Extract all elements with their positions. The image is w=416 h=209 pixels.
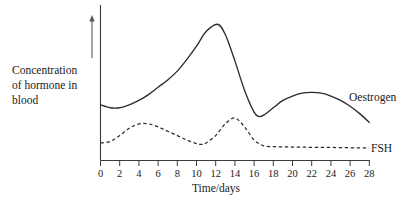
oestrogen-curve: [101, 24, 370, 122]
x-tick-label: 20: [287, 168, 298, 179]
x-axis-tick-labels: 0 2 4 6 8 10 12 14 16 18 20 22 24 26 28: [98, 168, 375, 179]
x-tick-label: 16: [249, 168, 260, 179]
x-tick-label: 10: [191, 168, 202, 179]
x-tick-label: 8: [175, 168, 180, 179]
increasing-direction-arrow-icon: [89, 15, 94, 58]
x-tick-label: 18: [268, 168, 279, 179]
x-tick-label: 2: [117, 168, 122, 179]
oestrogen-series-label: Oestrogen: [349, 91, 397, 104]
x-axis-ticks: [101, 161, 370, 167]
x-tick-label: 28: [364, 168, 375, 179]
x-tick-label: 22: [306, 168, 317, 179]
y-axis-title-line: of hormone in: [12, 79, 77, 91]
hormone-concentration-chart: 0 2 4 6 8 10 12 14 16 18 20 22 24 26 28 …: [0, 0, 416, 209]
x-tick-label: 0: [98, 168, 103, 179]
y-axis-title-line: blood: [12, 94, 38, 106]
x-tick-label: 14: [230, 168, 241, 179]
fsh-series-label: FSH: [371, 142, 392, 154]
x-tick-label: 4: [136, 168, 142, 179]
x-tick-label: 12: [210, 168, 221, 179]
x-tick-label: 6: [155, 168, 160, 179]
chart-canvas: 0 2 4 6 8 10 12 14 16 18 20 22 24 26 28 …: [0, 0, 416, 209]
x-axis-title: Time/days: [192, 182, 241, 195]
fsh-curve: [101, 118, 370, 148]
x-tick-label: 26: [345, 168, 356, 179]
y-axis-title-line: Concentration: [12, 64, 77, 76]
y-axis-title: Concentration of hormone in blood: [12, 64, 77, 106]
x-tick-label: 24: [326, 168, 337, 179]
